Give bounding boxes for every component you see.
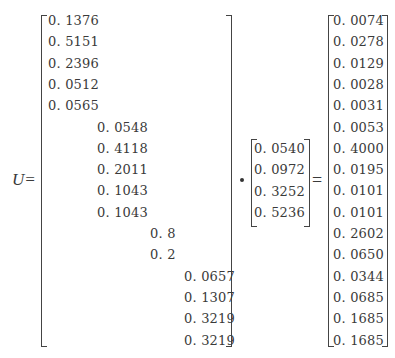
vector-w-cell: 0. 5236	[254, 206, 305, 220]
vector-w-cell: 0. 3252	[254, 185, 305, 199]
matrix-a-cell: 0. 3219	[184, 312, 235, 326]
result-cell: 0. 0129	[333, 57, 384, 71]
matrix-a-cell: 0. 4118	[97, 142, 148, 156]
result-cell: 0. 0101	[333, 206, 384, 220]
vector-w-cell: 0. 0972	[254, 163, 305, 177]
lhs-label: U=	[12, 170, 36, 190]
matrix-a-cell: 0. 3219	[184, 334, 235, 348]
result-cell: 0. 0053	[333, 121, 384, 135]
result-cell: 0. 0028	[333, 78, 384, 92]
matrix-a-cell: 0. 1043	[97, 184, 148, 198]
matrix-a-cell: 0. 8	[150, 227, 176, 241]
result-cell: 0. 0101	[333, 184, 384, 198]
result-cell: 0. 0685	[333, 291, 384, 305]
matrix-a-cell: 0. 2396	[48, 57, 99, 71]
matrix-a-cell: 0. 2011	[97, 163, 148, 177]
result-cell: 0. 0031	[333, 99, 384, 113]
dot-operator	[240, 178, 244, 182]
matrix-a-cell: 0. 1376	[48, 14, 99, 28]
result-cell: 0. 0344	[333, 270, 384, 284]
matrix-a-cell: 0. 0512	[48, 78, 99, 92]
result-cell: 0. 1685	[333, 334, 384, 348]
matrix-a-cell: 0. 5151	[48, 35, 99, 49]
matrix-a-left-bracket	[41, 15, 47, 347]
matrix-a-cell: 0. 0565	[48, 99, 99, 113]
result-cell: 0. 0074	[333, 14, 384, 28]
matrix-a-cell: 0. 2	[150, 248, 176, 262]
matrix-a-cell: 0. 1043	[97, 206, 148, 220]
matrix-a-cell: 0. 0548	[97, 121, 148, 135]
equals-sign: =	[312, 170, 322, 191]
result-cell: 0. 0650	[333, 248, 384, 262]
matrix-a-cell: 0. 1307	[184, 291, 235, 305]
vector-w-cell: 0. 0540	[254, 142, 305, 156]
matrix-a-cell: 0. 0657	[184, 270, 235, 284]
result-cell: 0. 0195	[333, 163, 384, 177]
result-cell: 0. 0278	[333, 35, 384, 49]
result-cell: 0. 4000	[333, 142, 384, 156]
result-cell: 0. 1685	[333, 312, 384, 326]
result-cell: 0. 2602	[333, 227, 384, 241]
